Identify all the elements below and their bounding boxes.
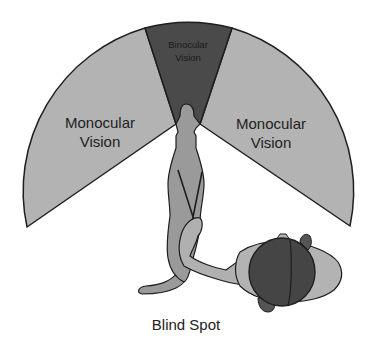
- rider-helmet: [249, 238, 315, 306]
- monocular-right-label-line1: Monocular: [236, 115, 306, 132]
- monocular-right-label-line2: Vision: [251, 134, 292, 151]
- binocular-label-line1: Binocular: [168, 39, 208, 50]
- monocular-left-label-line1: Monocular: [65, 114, 135, 131]
- binocular-label-line2: Vision: [175, 52, 201, 63]
- vision-field-diagram: Binocular Vision Monocular Vision Monocu…: [0, 0, 372, 351]
- monocular-left-label-line2: Vision: [80, 133, 121, 150]
- blind-spot-label: Blind Spot: [152, 316, 221, 333]
